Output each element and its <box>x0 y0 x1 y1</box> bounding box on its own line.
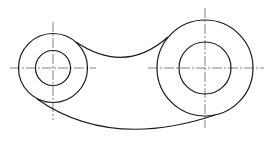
top-connecting-arc <box>76 37 168 57</box>
centerlines <box>10 8 264 128</box>
technical-drawing <box>0 0 267 143</box>
bottom-connecting-arc <box>37 99 215 129</box>
